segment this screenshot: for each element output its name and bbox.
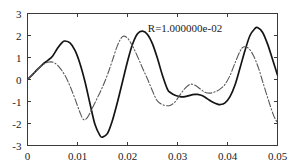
x-tick-label: 0 [25,150,31,162]
x-tick-label: 0.04 [218,150,238,162]
y-tick-label: 2 [16,30,22,42]
line-chart: 00.010.020.030.040.05 -3-2-10123 R=1.000… [0,0,292,167]
y-tick-label: -3 [12,140,22,152]
x-tick-label: 0.03 [168,150,188,162]
x-tick-label: 0.05 [268,150,288,162]
figure-container: 00.010.020.030.040.05 -3-2-10123 R=1.000… [0,0,292,167]
y-tick-label: -1 [12,96,21,108]
x-tick-label: 0.02 [118,150,137,162]
x-axis-tick-labels: 00.010.020.030.040.05 [25,150,288,162]
series-solid-curve [28,27,278,137]
y-tick-label: 3 [16,8,22,20]
data-series-group [28,27,278,137]
y-axis-tick-labels: -3-2-10123 [12,8,22,152]
series-dash-dot-curve [28,36,278,123]
chart-annotations: R=1.000000e-02 [148,22,222,34]
y-tick-label: 0 [16,74,22,86]
y-tick-label: 1 [16,52,22,64]
y-tick-label: -2 [12,118,21,130]
annotation-label: R=1.000000e-02 [148,22,222,34]
x-tick-label: 0.01 [68,150,87,162]
